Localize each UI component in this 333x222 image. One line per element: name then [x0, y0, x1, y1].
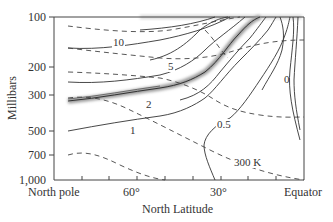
y-tick-700: 700 [6, 149, 46, 161]
contour-label-10: 10 [112, 37, 125, 48]
y-ticks [49, 17, 54, 155]
x-ticks [82, 176, 276, 180]
y-tick-100: 100 [6, 11, 46, 23]
y-axis-label: Millibars [6, 76, 18, 120]
contour-label-0-5: 0.5 [216, 119, 232, 130]
x-tick-north-pole: North pole [28, 186, 80, 198]
x-tick-60: 60° [123, 186, 140, 198]
contour-label-0: 0 [284, 74, 290, 85]
x-axis-label: North Latitude [142, 203, 213, 215]
contour-label-1: 1 [130, 125, 136, 136]
x-tick-equator: Equator [284, 186, 322, 198]
x-tick-30: 30° [210, 186, 227, 198]
contour-label-2: 2 [146, 99, 152, 110]
contour-label-5: 5 [167, 61, 175, 72]
y-tick-200: 200 [6, 61, 46, 73]
contour-label-300k: 300 K [233, 157, 262, 168]
y-tick-500: 500 [6, 125, 46, 137]
